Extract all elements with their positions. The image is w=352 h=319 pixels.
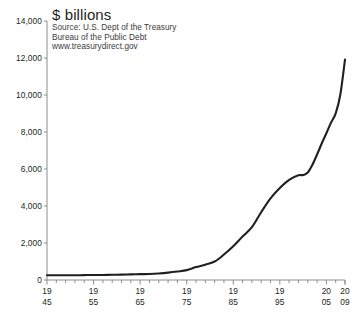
- x-tick-label-century: 19: [222, 286, 244, 297]
- x-tick-label-year: 65: [129, 297, 151, 308]
- x-tick-label-year: 85: [222, 297, 244, 308]
- x-tick-label: 2009: [334, 286, 352, 307]
- debt-line-chart: $ billions Source: U.S. Dept of the Trea…: [0, 0, 352, 319]
- x-tick-label: 1945: [36, 286, 58, 307]
- x-tick-label-century: 19: [269, 286, 291, 297]
- x-tick-label: 1975: [176, 286, 198, 307]
- x-tick-label: 1985: [222, 286, 244, 307]
- x-tick-label-year: 45: [36, 297, 58, 308]
- x-tick-label-century: 19: [36, 286, 58, 297]
- x-tick-label-century: 20: [334, 286, 352, 297]
- x-tick-label-year: 09: [334, 297, 352, 308]
- y-tick-label: 0: [0, 275, 42, 285]
- x-tick-label-year: 95: [269, 297, 291, 308]
- y-tick-label: 8,000: [0, 127, 42, 137]
- plot-area: [0, 0, 352, 319]
- x-tick-label-year: 55: [83, 297, 105, 308]
- x-tick-label: 1965: [129, 286, 151, 307]
- y-tick-label: 6,000: [0, 164, 42, 174]
- x-tick-label-century: 19: [129, 286, 151, 297]
- y-tick-label: 2,000: [0, 238, 42, 248]
- y-tick-label: 12,000: [0, 53, 42, 63]
- x-tick-label: 1955: [83, 286, 105, 307]
- x-tick-label: 1995: [269, 286, 291, 307]
- x-tick-label-century: 19: [83, 286, 105, 297]
- x-tick-label-year: 75: [176, 297, 198, 308]
- axis-group: [47, 21, 345, 280]
- y-tick-label: 4,000: [0, 201, 42, 211]
- debt-series-line: [47, 60, 345, 276]
- x-tick-label-century: 19: [176, 286, 198, 297]
- x-tick-marks: [47, 280, 345, 285]
- y-tick-label: 10,000: [0, 90, 42, 100]
- y-tick-label: 14,000: [0, 16, 42, 26]
